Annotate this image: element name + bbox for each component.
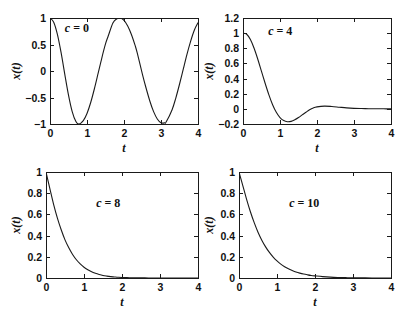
x-axis-label: t <box>313 295 317 309</box>
y-tick-label: 1.2 <box>224 12 239 24</box>
y-axis-label: x(t) <box>202 62 216 80</box>
y-tick-label: 1 <box>229 166 235 178</box>
y-tick-label: −0.2 <box>218 118 239 130</box>
x-axis-label: t <box>315 141 319 155</box>
subplot-c-4: 01234−0.200.20.40.60.811.2tx(t)c = 4 <box>193 0 403 160</box>
panel-annotation: c = 0 <box>65 21 89 35</box>
y-tick-label: 0.4 <box>27 230 42 242</box>
y-axis-label: x(t) <box>9 216 23 234</box>
y-tick-label: 0.4 <box>220 230 235 242</box>
data-curve <box>239 172 391 278</box>
axes-box <box>240 173 392 279</box>
y-tick-label: 0 <box>233 103 239 115</box>
x-tick-label: 4 <box>389 281 395 293</box>
y-tick-label: 0 <box>36 272 42 284</box>
x-tick-label: 0 <box>48 127 54 139</box>
data-curve <box>243 33 391 122</box>
y-tick-label: 0.8 <box>27 187 42 199</box>
x-tick-label: 0 <box>44 281 50 293</box>
x-tick-label: 1 <box>275 281 281 293</box>
x-tick-label: 3 <box>158 281 164 293</box>
x-tick-label: 1 <box>278 127 284 139</box>
figure-canvas: 01234−1−0.500.51tx(t)c = 0 01234−0.200.2… <box>0 0 403 314</box>
x-tick-label: 0 <box>241 127 247 139</box>
x-tick-label: 0 <box>237 281 243 293</box>
y-axis-label: x(t) <box>202 216 216 234</box>
y-tick-label: 0.2 <box>27 251 42 263</box>
y-tick-label: 0.2 <box>220 251 235 263</box>
y-tick-label: 0.4 <box>224 73 239 85</box>
y-tick-label: 0.6 <box>224 57 239 69</box>
y-tick-label: −1 <box>34 118 46 130</box>
panel-annotation: c = 8 <box>96 196 120 210</box>
y-tick-label: 0.6 <box>27 208 42 220</box>
y-tick-label: 0.5 <box>31 39 46 51</box>
y-tick-label: 1 <box>233 27 239 39</box>
subplot-c-8: 0123400.20.40.60.81tx(t)c = 8 <box>0 154 210 314</box>
y-tick-label: 0.8 <box>220 187 235 199</box>
plot-area-2: 0123400.20.40.60.81tx(t)c = 8 <box>0 154 210 314</box>
panel-annotation: c = 4 <box>268 24 292 38</box>
x-axis-label: t <box>122 141 126 155</box>
y-tick-label: 0.2 <box>224 88 239 100</box>
x-tick-label: 2 <box>122 127 128 139</box>
x-tick-label: 4 <box>389 127 395 139</box>
plot-area-3: 0123400.20.40.60.81tx(t)c = 10 <box>193 154 403 314</box>
x-axis-label: t <box>120 295 124 309</box>
y-tick-label: 0.6 <box>220 208 235 220</box>
y-tick-label: 0 <box>40 65 46 77</box>
y-tick-label: −0.5 <box>25 92 46 104</box>
x-tick-label: 1 <box>82 281 88 293</box>
x-tick-label: 3 <box>159 127 165 139</box>
subplot-c-0: 01234−1−0.500.51tx(t)c = 0 <box>0 0 210 160</box>
y-tick-label: 0 <box>229 272 235 284</box>
y-tick-label: 1 <box>36 166 42 178</box>
x-tick-label: 3 <box>352 127 358 139</box>
x-tick-label: 2 <box>315 127 321 139</box>
y-tick-label: 0.8 <box>224 42 239 54</box>
y-tick-label: 1 <box>40 12 46 24</box>
x-tick-label: 2 <box>120 281 126 293</box>
plot-area-1: 01234−0.200.20.40.60.811.2tx(t)c = 4 <box>193 0 403 160</box>
subplot-c-10: 0123400.20.40.60.81tx(t)c = 10 <box>193 154 403 314</box>
plot-area-0: 01234−1−0.500.51tx(t)c = 0 <box>0 0 210 160</box>
y-axis-label: x(t) <box>9 62 23 80</box>
data-curve <box>46 172 198 278</box>
x-tick-label: 3 <box>351 281 357 293</box>
x-tick-label: 1 <box>85 127 91 139</box>
axes-box <box>47 173 199 279</box>
panel-annotation: c = 10 <box>289 196 319 210</box>
x-tick-label: 2 <box>313 281 319 293</box>
